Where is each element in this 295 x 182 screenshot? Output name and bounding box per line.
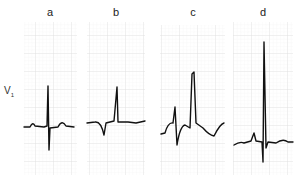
ecg-panels [0,0,295,182]
ecg-figure: a b c d V1 [0,0,295,182]
grid-a [24,22,77,175]
grid-c [160,25,225,175]
